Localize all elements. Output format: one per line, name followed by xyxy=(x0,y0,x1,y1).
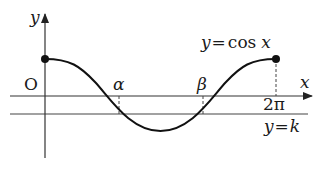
y-axis-label: y xyxy=(29,7,40,27)
end-point xyxy=(272,55,280,63)
alpha-label: α xyxy=(113,74,125,94)
line-label: y=k xyxy=(263,116,300,136)
cosine-graph: y x O α β 2π y=cosx y=k xyxy=(0,0,328,173)
two-pi-label: 2π xyxy=(263,94,285,114)
function-label: y=cosx xyxy=(200,32,271,52)
x-axis-label: x xyxy=(300,72,310,92)
start-point xyxy=(41,55,49,63)
origin-label: O xyxy=(24,74,38,94)
cosine-curve xyxy=(45,59,276,131)
beta-label: β xyxy=(196,74,207,94)
